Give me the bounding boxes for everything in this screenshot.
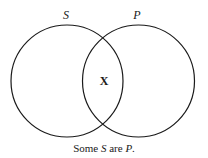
- label-s: S: [56, 8, 76, 23]
- caption-prefix: Some: [73, 142, 101, 154]
- caption-middle: are: [106, 142, 125, 154]
- caption: Some S are P.: [0, 142, 208, 154]
- caption-suffix: .: [132, 142, 135, 154]
- label-p: P: [127, 8, 147, 23]
- intersection-mark: X: [97, 74, 111, 89]
